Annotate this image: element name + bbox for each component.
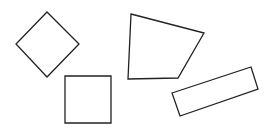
quadrilateral-shape	[128, 14, 204, 79]
diamond-shape	[16, 12, 79, 77]
square-shape	[65, 76, 111, 123]
shapes-canvas	[0, 0, 270, 131]
tilted-rectangle-shape	[172, 67, 258, 116]
